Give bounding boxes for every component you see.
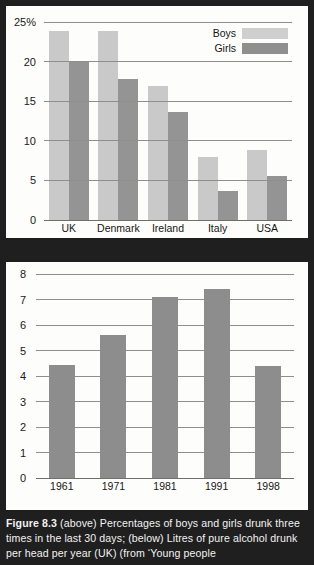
- bar: [218, 191, 238, 220]
- gridline: [36, 452, 294, 453]
- y-axis-tick-label: 8: [20, 269, 30, 280]
- x-axis-labels-top-chart: UKDenmarkIrelandItalyUSA: [44, 222, 292, 238]
- y-axis-tick-label: 5: [30, 175, 40, 186]
- bar-group: [94, 22, 144, 220]
- figure-caption-label: Figure 8.3: [6, 517, 57, 529]
- x-axis-tick-label: Denmark: [94, 222, 144, 234]
- x-axis-tick-label: UK: [44, 222, 94, 234]
- y-axis-tick-label: 1: [20, 448, 30, 459]
- bar: [100, 335, 126, 478]
- x-axis-line: [44, 220, 292, 221]
- gridline: [36, 299, 294, 300]
- y-axis-tick-label: 25%: [14, 17, 40, 28]
- bar: [168, 112, 188, 221]
- y-axis-top-chart: 0510152025%: [6, 22, 40, 220]
- x-axis-tick-label: 1991: [191, 480, 243, 492]
- y-axis-tick-label: 3: [20, 397, 30, 408]
- legend-swatch-boys: [242, 28, 288, 39]
- bar: [255, 366, 281, 478]
- gridline: [44, 101, 292, 102]
- gridline: [36, 274, 294, 275]
- legend-swatch-girls: [242, 43, 288, 54]
- y-axis-tick-label: 20: [24, 57, 40, 68]
- x-axis-tick-label: 1971: [88, 480, 140, 492]
- chart-panel-bottom: 012345678 19611971198119911998: [6, 262, 308, 510]
- legend-item-boys: Boys: [184, 27, 288, 40]
- legend-label-boys: Boys: [213, 28, 236, 39]
- gridline: [36, 350, 294, 351]
- x-axis-labels-bottom-chart: 19611971198119911998: [36, 480, 294, 496]
- y-axis-tick-label: 4: [20, 371, 30, 382]
- gridline: [44, 140, 292, 141]
- x-axis-tick-label: 1998: [242, 480, 294, 492]
- legend-label-girls: Girls: [214, 43, 236, 54]
- y-axis-tick-label: 7: [20, 295, 30, 306]
- y-axis-tick-label: 0: [30, 215, 40, 226]
- bar: [204, 289, 230, 478]
- gridline: [44, 61, 292, 62]
- gridline: [36, 401, 294, 402]
- bar: [148, 86, 168, 220]
- x-axis-tick-label: 1981: [139, 480, 191, 492]
- bar: [198, 157, 218, 220]
- y-axis-tick-label: 15: [24, 96, 40, 107]
- gridline: [36, 325, 294, 326]
- y-axis-bottom-chart: 012345678: [6, 274, 30, 478]
- figure-caption: Figure 8.3 (above) Percentages of boys a…: [6, 516, 310, 561]
- plot-area-bottom-chart: [36, 274, 294, 478]
- bar: [247, 150, 267, 220]
- x-axis-tick-label: USA: [242, 222, 292, 234]
- x-axis-tick-label: Italy: [193, 222, 243, 234]
- gridline: [44, 22, 292, 23]
- gridline: [36, 427, 294, 428]
- y-axis-tick-label: 0: [20, 473, 30, 484]
- gridline: [36, 376, 294, 377]
- bar: [98, 31, 118, 220]
- bar: [49, 31, 69, 220]
- y-axis-tick-label: 5: [20, 346, 30, 357]
- x-axis-line: [36, 478, 294, 479]
- bar: [267, 176, 287, 220]
- chart-panel-top: 0510152025% UKDenmarkIrelandItalyUSA Boy…: [6, 6, 308, 238]
- x-axis-tick-label: Ireland: [143, 222, 193, 234]
- chart-legend: Boys Girls: [184, 27, 288, 57]
- y-axis-tick-label: 10: [24, 136, 40, 147]
- y-axis-tick-label: 6: [20, 320, 30, 331]
- x-axis-tick-label: 1961: [36, 480, 88, 492]
- bar: [49, 365, 75, 478]
- bar-group: [44, 22, 94, 220]
- y-axis-tick-label: 2: [20, 422, 30, 433]
- legend-item-girls: Girls: [184, 42, 288, 55]
- figure-page: 0510152025% UKDenmarkIrelandItalyUSA Boy…: [0, 0, 314, 565]
- gridline: [44, 180, 292, 181]
